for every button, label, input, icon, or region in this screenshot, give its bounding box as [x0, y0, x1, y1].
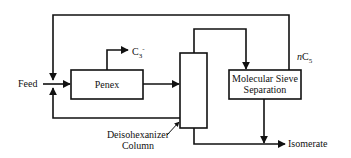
c3-offgas-line: [107, 50, 128, 70]
penex-label: Penex: [71, 79, 143, 90]
molecular-sieve-label: Molecular Sieve Separation: [229, 73, 301, 95]
deisohexanizer-column-box: [180, 53, 207, 128]
isomerate-label: Isomerate: [288, 138, 327, 149]
feed-label: Feed: [18, 78, 37, 89]
column-bottoms-line: [194, 128, 285, 144]
column-label: Deisohexanizer Column: [98, 129, 178, 151]
nc5-label: nC5: [297, 51, 312, 67]
c3-offgas-label: C3-: [132, 44, 145, 62]
